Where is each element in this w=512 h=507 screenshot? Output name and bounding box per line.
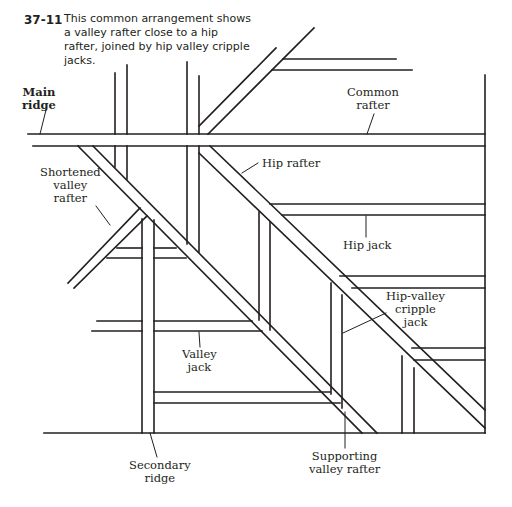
label-valley-jack-line2: jack (182, 361, 217, 374)
label-valley-jack: Valley jack (182, 348, 217, 374)
figure-caption: This common arrangement shows a valley r… (64, 12, 254, 68)
label-supporting-valley-rafter: Supporting valley rafter (309, 450, 380, 476)
label-shortened-valley-rafter-line3: rafter (40, 192, 101, 205)
label-hip-jack: Hip jack (343, 239, 392, 252)
label-supporting-valley-rafter-line2: valley rafter (309, 463, 380, 476)
label-secondary-ridge-line2: ridge (129, 472, 191, 485)
label-hip-rafter: Hip rafter (262, 157, 320, 170)
label-shortened-valley-rafter: Shortened valley rafter (40, 166, 101, 205)
supporting-valley-rafter (78, 146, 377, 433)
label-common-rafter: Common rafter (347, 86, 399, 112)
common-rafters-top-right (187, 62, 199, 134)
vertical-jack-center (187, 146, 199, 252)
figure-number: 37-11 (24, 13, 62, 27)
label-main-ridge-line2: ridge (22, 99, 56, 112)
label-common-rafter-line2: rafter (347, 99, 399, 112)
label-secondary-ridge: Secondary ridge (129, 459, 191, 485)
roof-framing-diagram: 37-11 This common arrangement shows a va… (0, 0, 512, 507)
framing-drawing (0, 0, 512, 507)
label-hip-valley-cripple-jack-line3: jack (386, 316, 445, 329)
hip-jacks (270, 204, 485, 360)
label-hip-valley-cripple-jack: Hip-valley cripple jack (386, 290, 445, 329)
short-horizontals (107, 248, 186, 258)
secondary-ridge (142, 219, 154, 433)
common-rafters-top-left (115, 65, 127, 134)
main-ridge (28, 134, 485, 146)
label-main-ridge: Main ridge (22, 86, 56, 112)
